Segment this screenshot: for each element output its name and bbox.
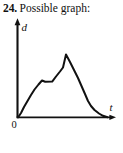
graph-figure: d t 0 [0,14,123,153]
x-axis-arrow-icon [109,115,116,120]
x-axis-label: t [110,101,114,113]
distance-time-curve [18,55,108,118]
origin-label: 0 [12,119,17,130]
y-axis [15,18,21,117]
y-axis-arrow-icon [15,18,21,25]
graph-svg: d t 0 [0,14,123,153]
figure-panel: 24.Possible graph: d t 0 [0,0,123,153]
problem-number: 24. [3,2,17,14]
problem-caption: Possible graph: [20,2,91,14]
y-axis-label: d [22,21,28,33]
